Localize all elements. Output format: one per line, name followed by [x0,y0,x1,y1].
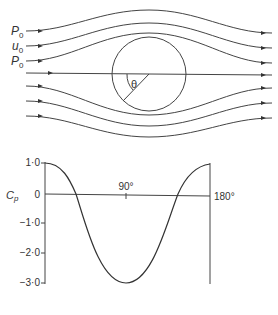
cp-chart: 1·0 0 −1·0 −2·0 −3·0 90° 180° Cp [6,157,235,288]
u0-label: u0 [12,39,24,55]
x-tick-label-90: 90° [118,181,133,192]
y-tick-label: 0 [34,189,40,200]
arrow-icon [261,46,266,50]
y-tick-label: 1·0 [26,157,41,168]
p0-top-label: P0 [11,24,24,40]
streamline-1 [26,10,272,33]
arrow-icon [261,73,266,77]
figure: θ P0 u0 P0 1·0 0 −1·0 −2·0 −3·0 90° 180°… [0,0,278,315]
arrow-icon [48,71,53,75]
arrow-icon [261,31,266,35]
y-axis-label: Cp [6,189,19,203]
arrow-icon [261,116,266,120]
arrow-icon [261,101,266,105]
theta-label: θ [131,78,137,90]
arrow-icon [261,61,266,65]
x-tick-label-180: 180° [214,191,235,202]
streamlines [26,10,272,137]
y-tick-label: −3·0 [20,277,41,288]
p0-bottom-label: P0 [11,54,24,70]
y-tick-label: −1·0 [20,217,41,228]
arrow-icon [261,86,266,90]
y-tick-label: −2·0 [20,247,41,258]
y-ticks [41,163,45,283]
x-axis [45,194,210,196]
